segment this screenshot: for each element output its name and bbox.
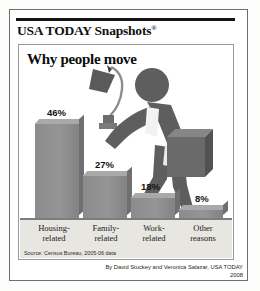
bar-label-housing-related: 46%: [47, 107, 66, 118]
masthead-brand: USA TODAY Snapshots: [17, 23, 151, 38]
bar-label-work-related: 18%: [141, 181, 160, 192]
bar-face: [83, 176, 127, 220]
chart-panel: Why people move: [18, 44, 234, 260]
bar-top: [35, 119, 83, 124]
bar-face: [131, 198, 175, 220]
bar-label-other-reasons: 8%: [195, 193, 209, 204]
credit-year: 2008: [105, 271, 243, 279]
bar-top: [83, 171, 131, 176]
masthead: USA TODAY Snapshots®: [16, 16, 242, 46]
source-note: Source: Census Bureau, 2005-06 data: [24, 250, 116, 256]
bar-label-family-related: 27%: [95, 159, 114, 170]
snapshot-infographic: USA TODAY Snapshots® Why people move: [0, 0, 260, 291]
bar-housing-related: [35, 123, 79, 220]
category-label-housing-related: Housing- related: [26, 224, 82, 243]
category-line-2: related: [42, 233, 65, 243]
category-line-1: Work-: [143, 223, 165, 233]
category-line-2: related: [94, 233, 117, 243]
bar-face: [35, 124, 79, 220]
byline: By David Stuckey and Veronica Salazar, U…: [105, 264, 243, 270]
axis-band: Housing- related Family- related Work- r…: [20, 218, 232, 258]
moving-box-icon: [167, 129, 213, 177]
category-label-other-reasons: Other reasons: [176, 224, 230, 243]
desk-lamp-icon: [89, 65, 122, 129]
masthead-rule: [16, 18, 235, 21]
category-label-work-related: Work- related: [128, 224, 180, 243]
bar-work-related: [131, 197, 175, 220]
bar-family-related: [83, 175, 127, 220]
category-line-1: Housing-: [38, 223, 70, 233]
category-line-1: Other: [193, 223, 212, 233]
category-line-2: reasons: [190, 233, 216, 243]
bar-top: [131, 193, 179, 198]
registered-mark-icon: ®: [151, 24, 156, 32]
bar-top: [179, 205, 227, 210]
credit-block: By David Stuckey and Veronica Salazar, U…: [105, 263, 243, 279]
masthead-title: USA TODAY Snapshots®: [17, 23, 156, 39]
category-label-family-related: Family- related: [78, 224, 134, 243]
category-line-1: Family-: [93, 223, 120, 233]
figure-highlight: [145, 107, 159, 137]
category-line-2: related: [142, 233, 165, 243]
